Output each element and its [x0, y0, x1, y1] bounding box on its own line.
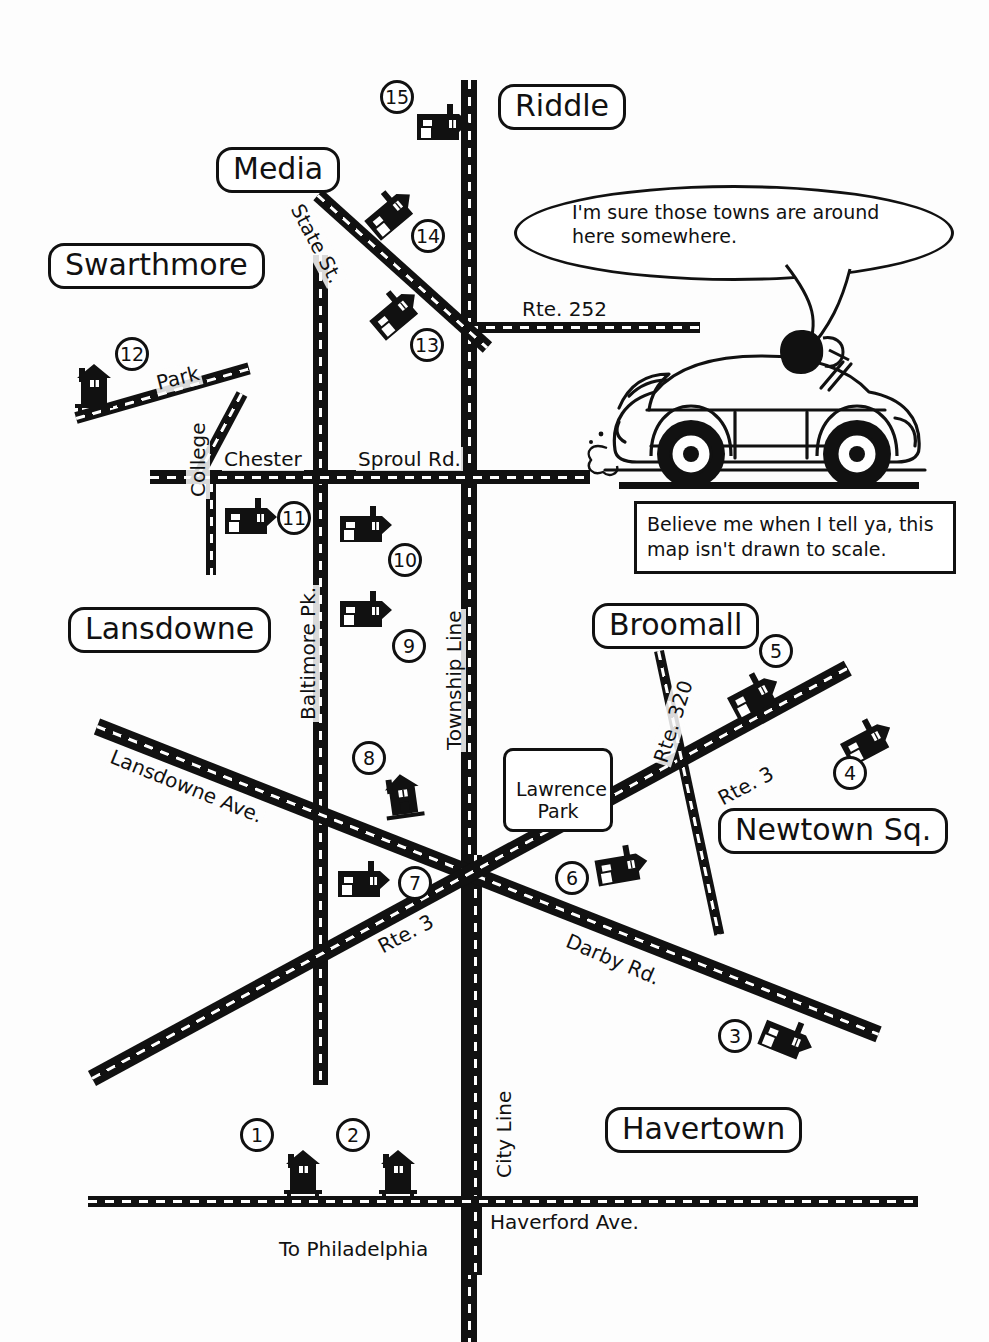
map-marker-4[interactable]: 4 [833, 756, 867, 790]
speech-bubble: I'm sure those towns are around here som… [514, 185, 954, 281]
town-label-text: Lansdowne [85, 611, 254, 646]
map-canvas: Riddle Media Swarthmore Lansdowne Brooma… [0, 0, 989, 1342]
street-label-rte-252: Rte. 252 [520, 297, 609, 321]
street-label-to-philadelphia: To Philadelphia [277, 1237, 430, 1261]
marker-number: 14 [416, 225, 440, 247]
street-label-city-line: City Line [492, 1089, 516, 1180]
map-marker-13[interactable]: 13 [410, 328, 444, 362]
road-chester-sproul [150, 470, 590, 484]
caption-box: Believe me when I tell ya, this map isn'… [634, 501, 956, 574]
house-icon [221, 492, 283, 546]
town-label-media[interactable]: Media [216, 147, 340, 193]
caption-text: Believe me when I tell ya, this map isn'… [647, 513, 934, 560]
map-marker-11[interactable]: 11 [277, 501, 311, 535]
town-label-text: Media [233, 151, 323, 186]
marker-number: 10 [393, 549, 417, 571]
map-marker-2[interactable]: 2 [336, 1118, 370, 1152]
town-label-swarthmore[interactable]: Swarthmore [48, 243, 265, 289]
town-label-text: Havertown [622, 1111, 785, 1146]
house-icon [336, 585, 398, 639]
town-label-text: Riddle [515, 88, 609, 123]
marker-number: 2 [347, 1124, 359, 1146]
town-label-text: Swarthmore [65, 247, 248, 282]
town-label-havertown[interactable]: Havertown [605, 1107, 802, 1153]
marker-number: 8 [363, 747, 375, 769]
town-label-broomall[interactable]: Broomall [592, 603, 759, 649]
marker-number: 1 [251, 1124, 263, 1146]
map-marker-15[interactable]: 15 [380, 80, 414, 114]
map-marker-6[interactable]: 6 [555, 861, 589, 895]
town-label-lansdowne[interactable]: Lansdowne [68, 607, 271, 653]
map-marker-14[interactable]: 14 [411, 219, 445, 253]
map-marker-1[interactable]: 1 [240, 1118, 274, 1152]
street-label-chester: Chester [222, 447, 304, 471]
marker-number: 9 [403, 635, 415, 657]
speech-bubble-text: I'm sure those towns are around here som… [572, 201, 914, 249]
marker-number: 11 [282, 507, 306, 529]
house-icon [274, 1142, 332, 1204]
house-icon [336, 500, 398, 554]
map-marker-12[interactable]: 12 [115, 337, 149, 371]
map-marker-5[interactable]: 5 [759, 634, 793, 668]
marker-number: 4 [844, 762, 856, 784]
town-label-newtown-sq[interactable]: Newtown Sq. [718, 808, 948, 854]
street-label-rte-3-east: Rte. 3 [712, 760, 779, 811]
marker-number: 12 [120, 343, 144, 365]
marker-number: 15 [385, 86, 409, 108]
street-label-sproul-rd: Sproul Rd. [356, 447, 463, 471]
marker-number: 7 [409, 872, 421, 894]
map-marker-7[interactable]: 7 [398, 866, 432, 900]
road-haverford-ave [88, 1196, 918, 1207]
town-label-riddle[interactable]: Riddle [498, 84, 626, 130]
street-label-baltimore-pk: Baltimore Pk. [296, 585, 320, 722]
street-label-township-line: Township Line [442, 609, 466, 752]
house-icon [588, 835, 658, 899]
town-label-text: Newtown Sq. [735, 812, 931, 847]
house-icon [334, 855, 396, 909]
house-icon [716, 657, 796, 734]
map-marker-8[interactable]: 8 [352, 741, 386, 775]
map-marker-9[interactable]: 9 [392, 629, 426, 663]
lawrence-park-box[interactable]: Lawrence Park [503, 748, 613, 832]
house-icon [65, 356, 123, 418]
map-marker-3[interactable]: 3 [718, 1019, 752, 1053]
marker-number: 6 [566, 867, 578, 889]
road-city-line [468, 855, 482, 1275]
house-icon [370, 762, 436, 831]
marker-number: 13 [415, 334, 439, 356]
car-illustration [585, 322, 945, 502]
map-marker-10[interactable]: 10 [388, 543, 422, 577]
marker-number: 3 [729, 1025, 741, 1047]
street-label-college: College [186, 420, 210, 499]
house-icon [413, 98, 475, 152]
house-icon [369, 1142, 427, 1204]
street-label-haverford-ave: Haverford Ave. [488, 1210, 641, 1234]
town-label-text: Broomall [609, 607, 742, 642]
marker-number: 5 [770, 640, 782, 662]
street-label-park: Park [152, 361, 204, 396]
lawrence-park-label: Lawrence Park [516, 778, 607, 822]
